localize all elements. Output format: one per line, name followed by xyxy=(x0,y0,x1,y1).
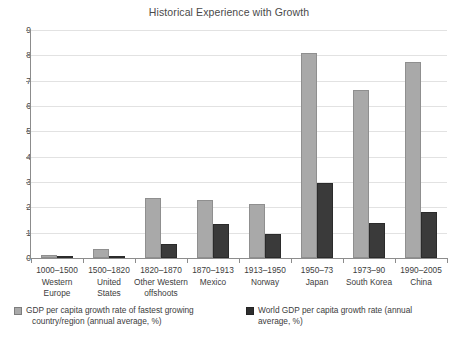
legend-label-line2: country/region (annual average, %) xyxy=(26,316,194,327)
chart-title: Historical Experience with Growth xyxy=(0,6,458,18)
bar-group xyxy=(135,30,187,258)
legend-label-line1: GDP per capita growth rate of fastest gr… xyxy=(26,305,194,315)
x-tick-mark xyxy=(83,259,84,263)
bar[interactable] xyxy=(93,249,109,258)
legend-label-line1: World GDP per capita growth rate (annual xyxy=(258,305,412,315)
x-label-place: China xyxy=(389,277,453,289)
x-tick-mark xyxy=(291,259,292,263)
legend-swatch-light-icon xyxy=(14,307,22,315)
bar-group xyxy=(291,30,343,258)
chart-container: Historical Experience with Growth 012345… xyxy=(0,0,458,337)
bar-group xyxy=(31,30,83,258)
y-axis: 0123456789 xyxy=(0,0,31,288)
legend-label-line2: average, %) xyxy=(258,316,412,327)
legend-entry-world-gdp: World GDP per capita growth rate (annual… xyxy=(246,305,446,327)
x-tick-mark xyxy=(239,259,240,263)
bar-group xyxy=(239,30,291,258)
legend-label-world-gdp: World GDP per capita growth rate (annual… xyxy=(258,305,412,327)
x-tick-mark xyxy=(135,259,136,263)
x-tick-mark xyxy=(31,259,32,263)
bar[interactable] xyxy=(213,224,229,258)
bar[interactable] xyxy=(197,200,213,258)
x-tick-mark xyxy=(187,259,188,263)
bar-group xyxy=(343,30,395,258)
bar-group xyxy=(187,30,239,258)
bars-layer xyxy=(31,30,447,258)
x-group-label: 1990–2005China xyxy=(389,265,453,288)
bar[interactable] xyxy=(421,212,437,258)
bar-group xyxy=(83,30,135,258)
x-tick-mark xyxy=(395,259,396,263)
x-tick-mark xyxy=(343,259,344,263)
plot-area xyxy=(31,30,447,258)
bar[interactable] xyxy=(249,204,265,258)
bar[interactable] xyxy=(369,223,385,258)
bar[interactable] xyxy=(161,244,177,258)
x-label-place-line2: offshoots xyxy=(129,288,193,300)
bar[interactable] xyxy=(405,62,421,258)
bar[interactable] xyxy=(265,234,281,258)
chart-legend: GDP per capita growth rate of fastest gr… xyxy=(0,305,458,337)
x-label-period: 1990–2005 xyxy=(389,265,453,277)
legend-label-fastest-growing: GDP per capita growth rate of fastest gr… xyxy=(26,305,194,327)
bar[interactable] xyxy=(317,183,333,258)
legend-swatch-dark-icon xyxy=(246,307,254,315)
legend-entry-fastest-growing: GDP per capita growth rate of fastest gr… xyxy=(14,305,219,327)
bar[interactable] xyxy=(301,53,317,258)
x-tick-mark xyxy=(447,259,448,263)
bar[interactable] xyxy=(353,90,369,258)
bar[interactable] xyxy=(145,198,161,258)
bar-group xyxy=(395,30,447,258)
